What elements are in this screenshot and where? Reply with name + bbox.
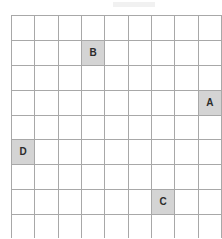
grid-cell[interactable] bbox=[175, 215, 198, 239]
grid-body: BADC bbox=[12, 16, 222, 239]
grid-cell[interactable] bbox=[151, 40, 174, 65]
grid-cell[interactable] bbox=[58, 40, 81, 65]
grid-row bbox=[12, 16, 222, 41]
grid-cell[interactable] bbox=[58, 65, 81, 90]
grid-cell[interactable] bbox=[58, 115, 81, 140]
grid-row bbox=[12, 215, 222, 239]
grid-cell[interactable] bbox=[105, 16, 128, 41]
grid-cell[interactable] bbox=[128, 215, 151, 239]
grid-cell[interactable] bbox=[12, 90, 35, 115]
grid-cell[interactable] bbox=[198, 215, 221, 239]
grid-cell[interactable] bbox=[105, 90, 128, 115]
grid-cell[interactable] bbox=[58, 190, 81, 215]
grid-cell[interactable] bbox=[151, 90, 174, 115]
grid-cell-a[interactable]: A bbox=[198, 90, 221, 115]
grid-cell[interactable] bbox=[58, 90, 81, 115]
grid-cell[interactable] bbox=[128, 190, 151, 215]
grid-cell[interactable] bbox=[128, 16, 151, 41]
grid-cell[interactable] bbox=[12, 40, 35, 65]
grid-cell[interactable] bbox=[35, 90, 58, 115]
grid-cell[interactable] bbox=[58, 16, 81, 41]
grid-cell[interactable] bbox=[35, 215, 58, 239]
grid-cell[interactable] bbox=[58, 215, 81, 239]
grid-cell[interactable] bbox=[151, 65, 174, 90]
grid-cell[interactable] bbox=[81, 115, 104, 140]
grid-cell[interactable] bbox=[105, 140, 128, 165]
grid-cell[interactable] bbox=[128, 140, 151, 165]
grid-cell[interactable] bbox=[81, 65, 104, 90]
grid-row bbox=[12, 65, 222, 90]
grid-cell[interactable] bbox=[175, 165, 198, 190]
grid-cell[interactable] bbox=[105, 215, 128, 239]
grid-cell[interactable] bbox=[198, 65, 221, 90]
grid-cell[interactable] bbox=[81, 165, 104, 190]
grid-cell[interactable] bbox=[105, 40, 128, 65]
grid-cell[interactable] bbox=[175, 90, 198, 115]
grid-cell[interactable] bbox=[198, 16, 221, 41]
grid-cell[interactable] bbox=[35, 190, 58, 215]
grid-cell[interactable] bbox=[12, 65, 35, 90]
grid-cell[interactable] bbox=[198, 140, 221, 165]
grid-cell[interactable] bbox=[198, 40, 221, 65]
grid-cell[interactable] bbox=[175, 115, 198, 140]
grid-cell[interactable] bbox=[35, 40, 58, 65]
grid-cell[interactable] bbox=[81, 190, 104, 215]
grid-row: A bbox=[12, 90, 222, 115]
grid-cell[interactable] bbox=[35, 140, 58, 165]
grid-cell[interactable] bbox=[198, 190, 221, 215]
grid-cell[interactable] bbox=[105, 115, 128, 140]
scan-artifact bbox=[113, 2, 155, 7]
grid-cell[interactable] bbox=[151, 165, 174, 190]
grid-cell[interactable] bbox=[175, 16, 198, 41]
puzzle-grid[interactable]: BADC bbox=[11, 15, 222, 238]
grid-row bbox=[12, 165, 222, 190]
grid-cell[interactable] bbox=[12, 165, 35, 190]
grid-cell[interactable] bbox=[128, 165, 151, 190]
grid-row: C bbox=[12, 190, 222, 215]
grid-row: D bbox=[12, 140, 222, 165]
grid-cell[interactable] bbox=[58, 140, 81, 165]
grid-cell[interactable] bbox=[81, 140, 104, 165]
grid-container: BADC bbox=[11, 15, 212, 230]
grid-cell[interactable] bbox=[105, 65, 128, 90]
grid-cell[interactable] bbox=[175, 65, 198, 90]
grid-cell-d[interactable]: D bbox=[12, 140, 35, 165]
grid-cell[interactable] bbox=[81, 215, 104, 239]
grid-cell[interactable] bbox=[12, 16, 35, 41]
grid-cell[interactable] bbox=[175, 190, 198, 215]
grid-cell[interactable] bbox=[128, 115, 151, 140]
grid-cell[interactable] bbox=[12, 215, 35, 239]
grid-cell[interactable] bbox=[128, 40, 151, 65]
grid-cell[interactable] bbox=[175, 40, 198, 65]
grid-cell[interactable] bbox=[151, 215, 174, 239]
grid-cell-c[interactable]: C bbox=[151, 190, 174, 215]
grid-cell[interactable] bbox=[151, 115, 174, 140]
grid-cell[interactable] bbox=[105, 190, 128, 215]
grid-row: B bbox=[12, 40, 222, 65]
grid-cell[interactable] bbox=[12, 190, 35, 215]
grid-cell[interactable] bbox=[151, 16, 174, 41]
grid-cell[interactable] bbox=[35, 165, 58, 190]
grid-cell-b[interactable]: B bbox=[81, 40, 104, 65]
grid-cell[interactable] bbox=[175, 140, 198, 165]
grid-cell[interactable] bbox=[81, 90, 104, 115]
grid-cell[interactable] bbox=[105, 165, 128, 190]
grid-cell[interactable] bbox=[198, 115, 221, 140]
grid-row bbox=[12, 115, 222, 140]
grid-cell[interactable] bbox=[151, 140, 174, 165]
grid-cell[interactable] bbox=[35, 115, 58, 140]
grid-cell[interactable] bbox=[35, 16, 58, 41]
grid-cell[interactable] bbox=[198, 165, 221, 190]
grid-cell[interactable] bbox=[128, 65, 151, 90]
grid-cell[interactable] bbox=[128, 90, 151, 115]
grid-cell[interactable] bbox=[81, 16, 104, 41]
grid-cell[interactable] bbox=[58, 165, 81, 190]
grid-cell[interactable] bbox=[12, 115, 35, 140]
grid-cell[interactable] bbox=[35, 65, 58, 90]
